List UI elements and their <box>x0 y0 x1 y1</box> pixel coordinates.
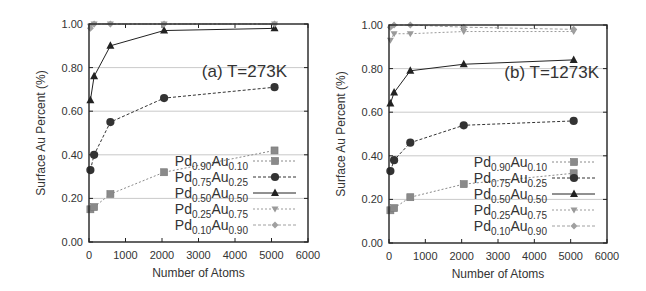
x-tick-label: 1000 <box>113 249 137 261</box>
data-point-triangle-down <box>387 38 394 44</box>
x-tick-label: 2000 <box>150 249 174 261</box>
data-point-triangle <box>570 190 578 198</box>
data-point-circle <box>160 94 168 102</box>
y-tick-label: 0.00 <box>362 237 383 249</box>
data-point-circle <box>270 83 278 91</box>
y-axis-label: Surface Au Percent (%) <box>34 70 48 195</box>
x-tick-label: 1000 <box>413 250 437 262</box>
x-tick-label: 4000 <box>223 249 247 261</box>
chart-a: 0.000.200.400.600.801.000100020003000400… <box>0 0 323 291</box>
data-point-circle <box>86 166 94 174</box>
y-tick-label: 0.00 <box>62 236 83 248</box>
y-tick-label: 0.80 <box>62 62 83 74</box>
y-tick-label: 0.40 <box>62 149 83 161</box>
data-point-circle <box>106 118 114 126</box>
x-tick-label: 4000 <box>522 250 546 262</box>
data-point-square <box>571 159 578 166</box>
x-tick-label: 3000 <box>486 250 510 262</box>
x-tick-label: 0 <box>86 249 92 261</box>
legend: Pd0.90Au0.10Pd0.75Au0.25Pd0.50Au0.50Pd0.… <box>175 153 296 236</box>
data-point-square <box>271 147 278 154</box>
data-point-circle <box>390 156 398 164</box>
data-point-circle <box>570 174 578 182</box>
data-point-square <box>272 158 279 165</box>
y-tick-label: 0.20 <box>362 193 383 205</box>
y-tick-label: 0.60 <box>62 105 83 117</box>
chart-panel-a: 0.000.200.400.600.801.000100020003000400… <box>0 0 323 291</box>
data-point-circle <box>406 139 414 147</box>
chart-panel-b: 0.000.200.400.600.801.000100020003000400… <box>323 0 646 291</box>
data-point-circle <box>570 117 578 125</box>
x-tick-label: 5000 <box>558 250 582 262</box>
x-tick-label: 3000 <box>186 249 210 261</box>
chart-b: 0.000.200.400.600.801.000100020003000400… <box>323 0 646 291</box>
y-tick-label: 0.40 <box>362 150 383 162</box>
data-point-circle <box>386 167 394 175</box>
data-point-triangle <box>271 189 279 197</box>
x-tick-label: 0 <box>386 250 392 262</box>
series-Pd0.10Au0.90 <box>387 22 577 33</box>
x-tick-label: 6000 <box>296 249 320 261</box>
data-point-triangle <box>90 72 98 80</box>
data-point-triangle <box>570 55 578 63</box>
data-point-triangle <box>86 96 94 104</box>
data-point-diamond <box>272 222 279 229</box>
x-tick-label: 6000 <box>595 250 619 262</box>
data-point-circle <box>90 151 98 159</box>
data-point-square <box>391 205 398 212</box>
chart-title: (b) T=1273K <box>504 63 599 82</box>
y-tick-label: 0.60 <box>362 106 383 118</box>
data-point-square <box>107 191 114 198</box>
x-axis-label: Number of Atoms <box>452 267 545 281</box>
data-point-square <box>91 204 98 211</box>
data-point-triangle <box>386 99 394 107</box>
data-point-circle <box>271 173 279 181</box>
x-tick-label: 2000 <box>449 250 473 262</box>
series-Pd0.25Au0.75 <box>387 29 577 44</box>
data-point-circle <box>460 121 468 129</box>
y-tick-label: 0.80 <box>362 63 383 75</box>
series-line <box>390 32 573 41</box>
data-point-triangle <box>460 60 468 67</box>
y-tick-label: 1.00 <box>362 19 383 31</box>
data-point-diamond <box>571 223 578 230</box>
y-tick-label: 0.20 <box>62 192 83 204</box>
chart-title: (a) T=273K <box>202 62 288 81</box>
x-tick-label: 5000 <box>259 249 283 261</box>
y-tick-label: 1.00 <box>62 18 83 30</box>
x-axis-label: Number of Atoms <box>152 266 245 280</box>
data-point-square <box>460 181 467 188</box>
y-axis-label: Surface Au Percent (%) <box>334 71 348 196</box>
data-point-square <box>407 194 414 201</box>
data-point-square <box>161 169 168 176</box>
legend: Pd0.90Au0.10Pd0.75Au0.25Pd0.50Au0.50Pd0.… <box>474 154 595 237</box>
